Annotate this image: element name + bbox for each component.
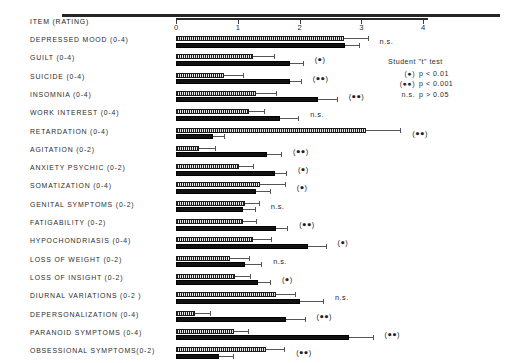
error-cap-solid-2 (301, 79, 302, 84)
error-bar-solid-16 (349, 337, 372, 338)
legend-entry: n.s.p > 0.05 (388, 90, 508, 101)
row-label-13: LOSS OF INSIGHT (0-2) (30, 274, 168, 282)
legend-text-p0001: p < 0.001 (419, 80, 453, 88)
error-cap-solid-12 (261, 262, 262, 267)
error-bar-hatched-12 (230, 258, 249, 259)
row-label-2: SUICIDE (0-4) (30, 73, 168, 81)
error-bar-solid-2 (290, 81, 301, 82)
row-label-1: GUILT (0-4) (30, 54, 168, 62)
error-cap-hatched-12 (249, 256, 250, 261)
error-cap-hatched-2 (243, 73, 244, 78)
significance-label-6: (●●) (293, 147, 308, 156)
x-tick-label-4: 4 (421, 23, 425, 32)
error-bar-hatched-4 (249, 111, 264, 112)
x-tick-label-2: 2 (297, 23, 301, 32)
bar-group-8 (176, 181, 500, 199)
error-cap-hatched-8 (285, 182, 286, 187)
error-cap-solid-11 (326, 244, 327, 249)
significance-label-10: (●●) (299, 220, 314, 229)
error-cap-solid-9 (255, 207, 256, 212)
error-bar-solid-15 (286, 319, 305, 320)
significance-label-11: (●) (338, 238, 349, 247)
bar-hatched-1 (176, 54, 253, 59)
bar-hatched-15 (176, 311, 195, 316)
bar-solid-7 (176, 171, 275, 176)
error-cap-solid-3 (337, 97, 338, 102)
error-cap-solid-0 (359, 43, 360, 48)
error-cap-hatched-10 (256, 219, 257, 224)
error-bar-solid-6 (267, 154, 281, 155)
error-cap-hatched-5 (400, 128, 401, 133)
bar-hatched-11 (176, 237, 253, 242)
row-label-14: DIURNAL VARIATIONS (0-2 ) (30, 292, 168, 300)
significance-label-17: (●●) (296, 348, 311, 357)
error-bar-hatched-3 (256, 93, 276, 94)
significance-label-5: (●●) (412, 129, 427, 138)
error-bar-hatched-0 (344, 38, 367, 39)
legend-text-p001: p < 0.01 (419, 70, 449, 78)
significance-label-2: (●●) (313, 74, 328, 83)
x-axis-line (176, 18, 428, 20)
error-cap-hatched-9 (259, 201, 260, 206)
error-cap-hatched-17 (284, 347, 285, 352)
bar-hatched-4 (176, 109, 249, 114)
error-cap-solid-6 (281, 152, 282, 157)
bar-hatched-10 (176, 219, 243, 224)
bar-solid-13 (176, 280, 258, 285)
row-label-12: LOSS OF WEIGHT (0-2) (30, 256, 168, 264)
bar-hatched-2 (176, 73, 224, 78)
error-bar-hatched-15 (195, 313, 210, 314)
significance-label-14: n.s. (335, 293, 349, 302)
significance-label-4: n.s. (310, 110, 324, 119)
row-label-11: HYPOCHONDRIASIS (0-4) (30, 237, 168, 245)
significance-label-13: (●) (282, 275, 293, 284)
error-bar-solid-13 (258, 282, 270, 283)
bar-solid-5 (176, 134, 213, 139)
x-tick-label-3: 3 (359, 23, 363, 32)
bar-hatched-3 (176, 91, 256, 96)
bar-hatched-13 (176, 274, 235, 279)
error-bar-solid-11 (308, 246, 325, 247)
bar-solid-12 (176, 262, 245, 267)
error-bar-hatched-1 (253, 56, 273, 57)
column-header-item-rating: ITEM (RATING) (30, 18, 168, 26)
bar-solid-9 (176, 207, 243, 212)
error-cap-hatched-13 (250, 274, 251, 279)
row-label-16: PARANOID SYMPTOMS (0-4) (30, 329, 168, 337)
bar-solid-15 (176, 317, 286, 322)
error-bar-solid-5 (213, 136, 224, 137)
legend-entry: (●●)p < 0.001 (388, 79, 508, 90)
bar-group-9 (176, 200, 500, 218)
error-cap-solid-5 (224, 134, 225, 139)
bar-solid-17 (176, 354, 219, 359)
bar-solid-16 (176, 335, 349, 340)
bar-solid-2 (176, 79, 290, 84)
legend-box: Student "t" test (●)p < 0.01 (●●)p < 0.0… (388, 57, 508, 100)
bar-group-5 (176, 127, 500, 145)
x-tick-label-0: 0 (174, 23, 178, 32)
error-bar-solid-12 (245, 264, 261, 265)
bar-group-12 (176, 255, 500, 273)
error-bar-solid-8 (256, 191, 270, 192)
error-cap-hatched-16 (248, 329, 249, 334)
significance-label-0: n.s. (380, 37, 394, 46)
error-bar-solid-14 (300, 301, 323, 302)
bar-hatched-16 (176, 329, 234, 334)
significance-label-9: n.s. (271, 202, 285, 211)
error-cap-hatched-1 (274, 54, 275, 59)
error-cap-solid-7 (286, 171, 287, 176)
error-bar-hatched-16 (234, 331, 248, 332)
bar-hatched-0 (176, 36, 344, 41)
error-bar-solid-10 (276, 228, 287, 229)
legend-tag-ns: n.s. (388, 90, 415, 101)
bar-group-15 (176, 310, 500, 328)
error-bar-hatched-6 (199, 148, 214, 149)
bar-hatched-14 (176, 292, 276, 297)
error-bar-hatched-14 (276, 294, 295, 295)
error-cap-solid-1 (303, 61, 304, 66)
error-cap-hatched-15 (210, 311, 211, 316)
error-cap-hatched-4 (264, 109, 265, 114)
bar-solid-14 (176, 299, 300, 304)
bar-group-17 (176, 346, 500, 363)
error-cap-solid-17 (233, 354, 234, 359)
